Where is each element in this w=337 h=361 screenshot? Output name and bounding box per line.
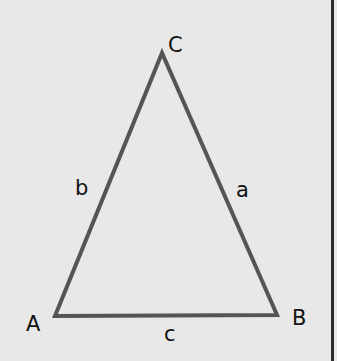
vertex-label-c: C xyxy=(168,35,183,56)
side-label-c: c xyxy=(164,324,176,345)
vertex-label-a: A xyxy=(26,314,40,335)
right-border-line xyxy=(331,0,334,361)
side-label-a: a xyxy=(236,180,249,201)
diagram-canvas: C A B a b c xyxy=(0,0,337,361)
vertex-label-b: B xyxy=(292,308,306,329)
side-label-b: b xyxy=(75,178,88,199)
